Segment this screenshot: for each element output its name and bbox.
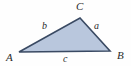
side-label-b: b (42, 21, 47, 31)
vertex-label-b: B (117, 50, 124, 61)
triangle-figure: A B C a b c (0, 0, 131, 66)
side-label-a: a (94, 21, 99, 31)
vertex-label-a: A (6, 52, 13, 63)
vertex-label-c: C (76, 1, 83, 12)
side-label-c: c (63, 54, 67, 64)
